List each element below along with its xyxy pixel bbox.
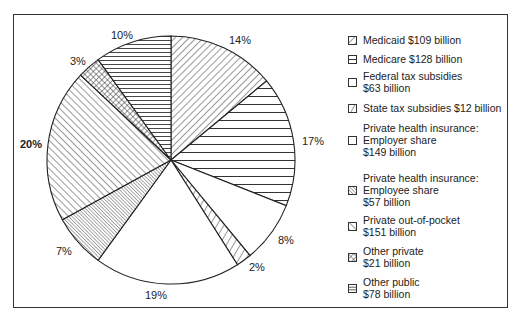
label-other-public: 10% [111, 29, 133, 41]
label-employee: 7% [56, 245, 72, 257]
legend-text-federal-tax: Federal tax subsidies$63 billion [363, 70, 462, 94]
other-public-swatch-icon [348, 284, 357, 293]
label-state-tax: 2% [249, 261, 265, 273]
legend-text-other-public: Other public$78 billion [363, 276, 420, 300]
out-of-pocket-swatch-icon [348, 222, 357, 231]
legend-item-employer: Private health insurance:Employer share$… [348, 122, 479, 158]
label-out-of-pocket: 20% [20, 138, 42, 150]
legend-item-out-of-pocket: Private out-of-pocket$151 billion [348, 214, 460, 238]
legend-item-state-tax: State tax subsidies $12 billion [348, 102, 501, 114]
legend-text-medicare: Medicare $128 billion [363, 53, 462, 65]
label-other-private: 3% [70, 55, 86, 67]
label-medicare: 17% [302, 135, 324, 147]
other-private-swatch-icon [348, 253, 357, 262]
legend-item-other-public: Other public$78 billion [348, 276, 420, 300]
label-federal-tax: 8% [278, 234, 294, 246]
medicare-swatch-icon [348, 55, 357, 64]
legend-item-other-private: Other private$21 billion [348, 245, 424, 269]
employer-swatch-icon [348, 136, 357, 145]
legend-item-medicare: Medicare $128 billion [348, 53, 462, 65]
legend-item-employee: Private health insurance:Employee share$… [348, 172, 479, 208]
legend-text-employer: Private health insurance:Employer share$… [363, 122, 479, 158]
legend-text-medicaid: Medicaid $109 billion [363, 34, 461, 46]
legend: Medicaid $109 billion Medicare $128 bill… [348, 0, 513, 320]
state-tax-swatch-icon [348, 104, 357, 113]
label-employer: 19% [145, 289, 167, 301]
legend-item-federal-tax: Federal tax subsidies$63 billion [348, 70, 462, 94]
employee-swatch-icon [348, 186, 357, 195]
legend-item-medicaid: Medicaid $109 billion [348, 34, 461, 46]
legend-text-other-private: Other private$21 billion [363, 245, 424, 269]
legend-text-out-of-pocket: Private out-of-pocket$151 billion [363, 214, 460, 238]
medicaid-swatch-icon [348, 36, 357, 45]
legend-text-state-tax: State tax subsidies $12 billion [363, 102, 501, 114]
federal-tax-swatch-icon [348, 78, 357, 87]
label-medicaid: 14% [229, 34, 251, 46]
legend-text-employee: Private health insurance:Employee share$… [363, 172, 479, 208]
